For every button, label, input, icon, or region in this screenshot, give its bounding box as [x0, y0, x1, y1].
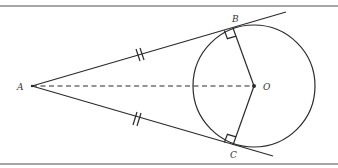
point-a	[31, 85, 33, 87]
center-point-o	[252, 84, 256, 88]
radius-oc	[233, 86, 254, 145]
label-a: A	[16, 82, 24, 92]
tangents-circle-diagram: A B C O	[0, 0, 338, 168]
equal-tick-ac-1	[133, 112, 137, 125]
equal-tick-ac-2	[137, 113, 141, 126]
label-o: O	[263, 82, 271, 92]
label-b: B	[231, 14, 239, 24]
tangent-line-ab	[32, 12, 286, 86]
label-c: C	[230, 150, 237, 160]
radius-ob	[233, 28, 254, 86]
tangent-line-ac	[32, 86, 273, 156]
